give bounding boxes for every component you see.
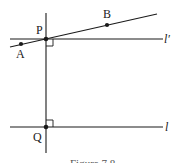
line-ab bbox=[10, 14, 157, 47]
point-p bbox=[44, 37, 49, 42]
geometry-diagram: P A B Q l′ l Figure 7.8 bbox=[0, 0, 175, 163]
label-p: P bbox=[36, 23, 43, 37]
label-l-prime: l′ bbox=[164, 32, 170, 46]
label-l: l bbox=[165, 120, 169, 134]
label-a: A bbox=[16, 47, 25, 61]
figure-caption: Figure 7.8 bbox=[70, 157, 116, 163]
point-q bbox=[44, 125, 49, 130]
label-b: B bbox=[103, 7, 111, 21]
point-b bbox=[105, 23, 109, 27]
point-a bbox=[19, 42, 23, 46]
label-q: Q bbox=[33, 130, 42, 144]
